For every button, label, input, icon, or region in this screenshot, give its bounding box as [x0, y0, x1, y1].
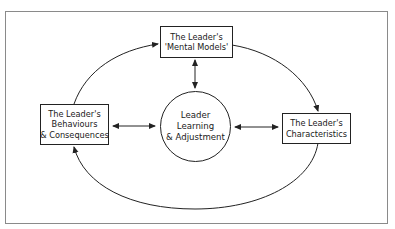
node-characteristics-line-2: Characteristics [286, 129, 347, 140]
node-mental-models-line-2: 'Mental Models' [165, 42, 229, 53]
cycle-arrow-mental-models-to-characteristics [232, 45, 318, 111]
node-behaviours-line-3: & Consequences [40, 130, 109, 141]
node-behaviours-line-1: The Leader's [48, 109, 100, 120]
node-hub-learning-adjustment: Leader Learning & Adjustment [160, 91, 231, 162]
node-characteristics-line-1: The Leader's [290, 118, 342, 129]
node-characteristics: The Leader's Characteristics [282, 113, 351, 144]
cycle-arrow-behaviours-to-mental-models [74, 44, 158, 104]
node-mental-models-line-1: The Leader's [170, 32, 222, 43]
node-hub-line-3: & Adjustment [166, 132, 225, 143]
node-hub-line-1: Leader [181, 110, 210, 121]
node-hub-line-2: Learning [177, 121, 214, 132]
node-behaviours-line-2: Behaviours [52, 119, 98, 130]
node-behaviours: The Leader's Behaviours & Consequences [40, 104, 109, 145]
node-mental-models: The Leader's 'Mental Models' [160, 26, 233, 58]
